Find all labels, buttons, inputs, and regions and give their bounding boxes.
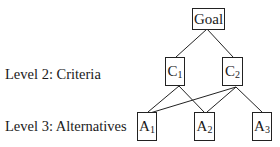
node-a1-subscript: 1: [150, 125, 155, 135]
node-goal: Goal: [192, 8, 225, 30]
node-c1-subscript: 1: [178, 70, 183, 80]
edge-c2-a3: [236, 87, 262, 112]
node-c2-label: C: [225, 64, 235, 79]
node-c2: C2: [222, 57, 243, 86]
node-a3-label: A: [254, 119, 265, 134]
node-c1: C1: [165, 57, 185, 86]
edge-goal-c2: [207, 29, 233, 57]
edge-c2-a2: [207, 87, 236, 112]
node-c1-label: C: [167, 64, 177, 79]
node-a3: A3: [252, 112, 272, 141]
edge-c1-a1: [148, 86, 179, 112]
node-a3-subscript: 3: [265, 125, 270, 135]
node-goal-label: Goal: [194, 12, 223, 27]
edge-goal-c1: [176, 29, 207, 57]
node-c2-subscript: 2: [235, 70, 240, 80]
node-a2: A2: [194, 112, 215, 141]
level-2-label: Level 2: Criteria: [5, 67, 101, 82]
edge-c1-a2: [179, 86, 204, 112]
level-3-label: Level 3: Alternatives: [5, 119, 127, 134]
node-a2-subscript: 2: [207, 125, 212, 135]
node-a1-label: A: [139, 119, 150, 134]
node-a2-label: A: [197, 119, 208, 134]
node-a1: A1: [137, 112, 157, 141]
